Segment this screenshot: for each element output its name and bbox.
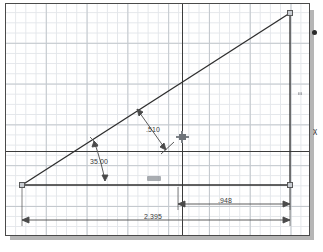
offset-dimension (178, 187, 290, 210)
drawing-canvas[interactable]: .510 35.00 .948 2.395 ≡ (5, 3, 310, 236)
sketch-geometry-overlay (6, 4, 309, 235)
margin-bullet-icon (312, 30, 317, 35)
margin-text-fragment: χ (313, 126, 323, 135)
triangle-geometry (22, 13, 290, 185)
crosshair-cursor-icon (176, 131, 189, 143)
grip-square-icon[interactable] (287, 182, 293, 188)
perp-dimension-label[interactable]: .510 (146, 126, 160, 133)
hypotenuse-line (22, 13, 290, 185)
angle-dimension-label[interactable]: 35.00 (90, 158, 108, 165)
grip-square-icon[interactable] (19, 182, 25, 188)
vertical-dimension-tag: ≡ (297, 92, 303, 95)
offset-dimension-label[interactable]: .948 (218, 197, 232, 204)
base-dimension-label[interactable]: 2.395 (144, 213, 162, 220)
grip-square-icon[interactable] (287, 10, 293, 16)
base-dimension (22, 187, 290, 226)
cad-sketch-screenshot: .510 35.00 .948 2.395 ≡ χ (0, 0, 323, 252)
sketch-marker-icon (147, 176, 161, 181)
